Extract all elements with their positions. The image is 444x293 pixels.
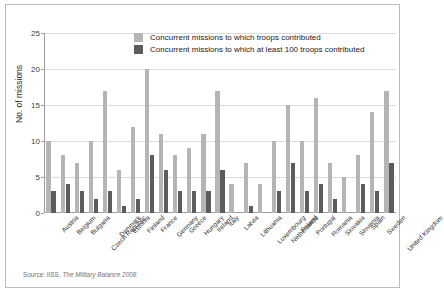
bar <box>150 155 154 213</box>
bar <box>249 206 253 213</box>
bars-layer <box>44 33 396 213</box>
bar <box>75 163 79 213</box>
y-tick-label-25: 25 <box>31 29 40 38</box>
plot-area: 0510152025 <box>44 33 396 213</box>
source-prefix: Source: IISS, <box>23 271 62 278</box>
source-year: 2008. <box>120 271 138 278</box>
bar <box>51 191 55 213</box>
bar-group <box>382 33 396 213</box>
bar <box>206 191 210 213</box>
bar <box>356 155 360 213</box>
bar <box>314 98 318 213</box>
bar <box>178 191 182 213</box>
bar <box>286 105 290 213</box>
bar-group <box>297 33 311 213</box>
bar <box>89 141 93 213</box>
bar <box>173 155 177 213</box>
bar <box>389 163 393 213</box>
bar <box>66 184 70 213</box>
bar <box>342 177 346 213</box>
bar-group <box>241 33 255 213</box>
legend-swatch-light <box>134 33 143 42</box>
bar-group <box>354 33 368 213</box>
bar <box>164 170 168 213</box>
bar-group <box>86 33 100 213</box>
bar-group <box>72 33 86 213</box>
bar <box>370 112 374 213</box>
bar <box>220 170 224 213</box>
bar-group <box>283 33 297 213</box>
bar <box>305 191 309 213</box>
y-tick-label-5: 5 <box>36 173 40 182</box>
bar <box>103 91 107 213</box>
bar-group <box>157 33 171 213</box>
bar-group <box>269 33 283 213</box>
legend-swatch-dark <box>134 45 143 54</box>
x-tick-label: Sweden <box>385 214 407 236</box>
bar <box>319 184 323 213</box>
x-tick-label: Latvia <box>242 214 259 231</box>
bar <box>291 163 295 213</box>
y-axis-title: No. of missions <box>14 65 24 123</box>
bar-group <box>227 33 241 213</box>
bar <box>117 170 121 213</box>
chart-frame: No. of missions 0510152025 AustriaBelgiu… <box>5 4 400 288</box>
bar-group <box>143 33 157 213</box>
bar <box>333 199 337 213</box>
bar-group <box>58 33 72 213</box>
bar <box>272 141 276 213</box>
bar <box>187 148 191 213</box>
bar-group <box>185 33 199 213</box>
bar-group <box>199 33 213 213</box>
bar <box>277 191 281 213</box>
bar-group <box>326 33 340 213</box>
bar-group <box>100 33 114 213</box>
bar <box>201 134 205 213</box>
y-tick-label-10: 10 <box>31 137 40 146</box>
bar <box>46 141 50 213</box>
y-tick-label-20: 20 <box>31 65 40 74</box>
bar <box>384 91 388 213</box>
legend-label: Concurrent missions to which troops cont… <box>150 33 321 42</box>
x-tick-label: United Kingdom <box>406 214 444 252</box>
bar <box>136 199 140 213</box>
bar <box>108 191 112 213</box>
chart-legend: Concurrent missions to which troops cont… <box>134 33 364 57</box>
bar-group <box>368 33 382 213</box>
bar <box>229 184 233 213</box>
bar <box>131 127 135 213</box>
bar <box>145 69 149 213</box>
x-axis-labels: AustriaBelgiumBulgariaCzech RepublicDenm… <box>44 214 396 266</box>
bar-group <box>340 33 354 213</box>
legend-label: Concurrent missions to which at least 10… <box>150 45 364 54</box>
bar-group <box>312 33 326 213</box>
legend-item: Concurrent missions to which at least 10… <box>134 45 364 54</box>
y-tick-label-15: 15 <box>31 101 40 110</box>
y-tick-label-0: 0 <box>36 209 40 218</box>
bar-group <box>44 33 58 213</box>
bar <box>215 91 219 213</box>
bar-group <box>255 33 269 213</box>
source-title: The Military Balance <box>62 271 120 278</box>
bar-group <box>128 33 142 213</box>
source-note: Source: IISS, The Military Balance 2008. <box>23 271 138 278</box>
bar <box>192 191 196 213</box>
bar-group <box>171 33 185 213</box>
bar <box>300 141 304 213</box>
bar <box>80 191 84 213</box>
bar <box>361 184 365 213</box>
bar <box>328 163 332 213</box>
legend-item: Concurrent missions to which troops cont… <box>134 33 364 42</box>
x-tick-label: Lithuania <box>259 214 283 238</box>
bar <box>375 191 379 213</box>
bar <box>159 134 163 213</box>
bar <box>61 155 65 213</box>
bar <box>94 199 98 213</box>
bar <box>258 184 262 213</box>
bar-group <box>114 33 128 213</box>
bar-group <box>213 33 227 213</box>
bar <box>244 163 248 213</box>
bar <box>122 206 126 213</box>
